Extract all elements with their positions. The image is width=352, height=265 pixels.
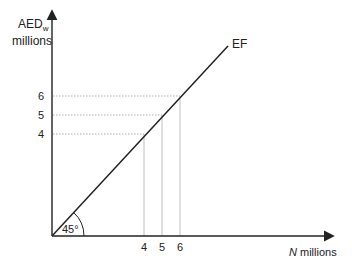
y-tick-5: 5 [38, 110, 44, 121]
y-axis-label: AEDw [18, 18, 48, 33]
ef-label: EF [232, 38, 247, 50]
guide-lines [53, 96, 180, 134]
x-tick-4: 4 [141, 242, 147, 253]
y-tick-6: 6 [38, 91, 44, 102]
diagram-canvas [0, 0, 352, 265]
x-axis-label: N millions [289, 247, 337, 258]
x-tick-5: 5 [159, 242, 165, 253]
x-tick-6: 6 [177, 242, 183, 253]
angle-label: 45° [62, 224, 79, 235]
y-axis-unit: millions [12, 35, 52, 47]
ef-line [52, 46, 228, 236]
y-tick-4: 4 [38, 129, 44, 140]
